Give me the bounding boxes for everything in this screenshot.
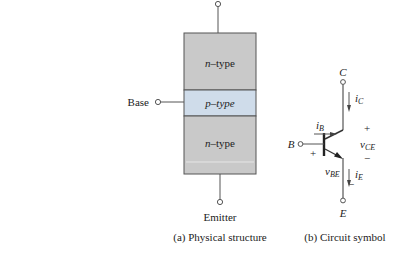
vce-label: vCE: [360, 138, 375, 152]
vce-minus: −: [364, 152, 370, 164]
layer-label-top: n–type: [205, 57, 235, 69]
layer-label-bottom: n–type: [205, 137, 235, 149]
layer-label-middle: p–type: [204, 97, 234, 109]
ib-label: iB: [316, 119, 324, 133]
vce-plus: +: [364, 122, 370, 134]
collector-symbol-label: C: [339, 66, 347, 78]
emitter-arrow-icon: [334, 152, 343, 159]
symbol-base-terminal: [298, 142, 303, 147]
bjt-diagram: n–type p–type n–type Base Emitter (a) Ph…: [0, 0, 395, 253]
ie-label: iE: [355, 168, 363, 182]
emitter-label: Emitter: [204, 211, 237, 223]
ic-label: iC: [355, 92, 364, 106]
emitter-symbol-label: E: [339, 207, 347, 219]
caption-physical: (a) Physical structure: [173, 231, 267, 244]
caption-symbol: (b) Circuit symbol: [304, 231, 385, 244]
collector-terminal: [215, 1, 220, 6]
symbol-collector-terminal: [341, 80, 346, 85]
base-label: Base: [128, 96, 150, 108]
base-symbol-label: B: [288, 138, 295, 150]
symbol-emitter-terminal: [341, 198, 346, 203]
physical-structure: n–type p–type n–type Base Emitter (a) Ph…: [128, 1, 267, 244]
emitter-terminal: [217, 199, 222, 204]
circuit-symbol: C B E iC iB + vCE − + vBE − iE: [288, 66, 386, 244]
base-terminal: [155, 99, 160, 104]
vbe-plus: +: [310, 147, 316, 159]
vbe-label: vBE: [325, 165, 340, 179]
ic-arrow-icon: [347, 105, 351, 112]
